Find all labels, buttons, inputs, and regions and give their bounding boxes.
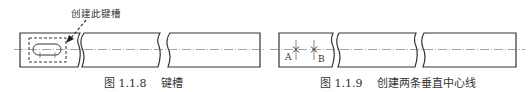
figure-caption: 图 1.1.9创建两条垂直中心线 [320, 74, 476, 90]
figure-number: 图 1.1.9 [320, 77, 363, 90]
figure-title: 创建两条垂直中心线 [377, 77, 476, 90]
shaft-segment-3 [422, 33, 516, 67]
point-label-a: A [284, 52, 292, 62]
point-label-b: B [318, 54, 325, 64]
shaft-segment-2 [337, 33, 418, 67]
